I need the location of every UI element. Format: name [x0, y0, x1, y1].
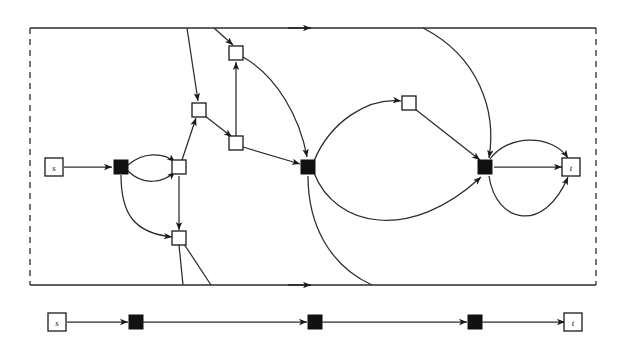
main-graph-edges: [64, 28, 568, 285]
edge-i-to-t-upper: [490, 140, 568, 159]
edge-a-to-b-lower: [128, 171, 175, 181]
enclosure-border: [30, 28, 596, 285]
edge-d-to-g: [243, 57, 307, 157]
chain-node-p2[interactable]: [308, 315, 322, 329]
chain-node-p3[interactable]: [468, 315, 482, 329]
figure-canvas: s t: [0, 0, 626, 344]
edge-b-to-c: [182, 118, 196, 160]
edge-topedge-to-c: [187, 28, 198, 101]
node-t[interactable]: t: [562, 158, 580, 176]
node-a[interactable]: [114, 160, 128, 174]
node-g[interactable]: [301, 160, 315, 174]
node-d[interactable]: [229, 46, 243, 60]
edge-f-to-bottom-left: [179, 245, 183, 285]
node-b[interactable]: [172, 160, 186, 174]
edge-c-to-e: [205, 116, 232, 137]
node-h[interactable]: [402, 96, 416, 110]
edge-a-to-f: [121, 175, 172, 237]
chain-node-p1[interactable]: [129, 315, 143, 329]
edge-a-to-b-upper: [128, 155, 175, 165]
edge-topedge-to-i: [423, 28, 491, 158]
node-e[interactable]: [229, 136, 243, 150]
chain-node-s-label: s: [55, 318, 59, 328]
edge-topedge-to-d: [214, 28, 233, 45]
node-c[interactable]: [192, 103, 206, 117]
node-f[interactable]: [172, 231, 186, 245]
path-chain: s t: [48, 313, 582, 331]
diagram-svg: s t: [0, 0, 626, 344]
node-i[interactable]: [478, 160, 492, 174]
edge-g-to-i: [314, 173, 481, 220]
edge-g-to-bottom: [308, 176, 372, 285]
edge-i-to-t-lower: [489, 176, 568, 216]
edge-f-to-bottom-right: [184, 244, 211, 285]
edge-g-to-h: [314, 101, 401, 161]
node-s-label: s: [52, 163, 56, 173]
chain-node-s[interactable]: s: [48, 313, 66, 331]
edge-e-to-g: [243, 147, 300, 164]
chain-node-t[interactable]: t: [564, 313, 582, 331]
edge-h-to-i: [415, 109, 480, 160]
node-s[interactable]: s: [45, 158, 63, 176]
